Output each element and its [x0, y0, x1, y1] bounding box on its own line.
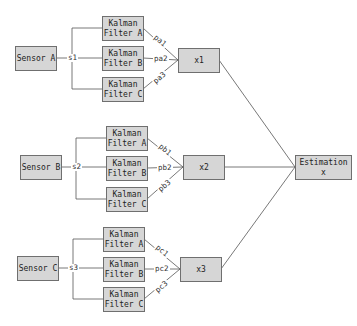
filter-line2: Filter B	[105, 270, 144, 280]
filter-line1: Kalman	[113, 190, 142, 200]
kalman-filter-a3: Kalman Filter C	[102, 77, 144, 102]
kalman-filter-c3: Kalman Filter C	[103, 287, 145, 312]
signal-s1-label: s1	[67, 54, 78, 62]
filter-line2: Filter C	[105, 300, 144, 310]
filter-line1: Kalman	[109, 19, 138, 29]
kalman-filter-c1: Kalman Filter A	[103, 227, 145, 252]
filter-line2: Filter C	[108, 200, 147, 210]
estimation-line1: Estimation	[299, 158, 347, 168]
signal-s3-label: s3	[68, 264, 79, 272]
kalman-filter-a1: Kalman Filter A	[102, 16, 144, 41]
filter-line1: Kalman	[110, 290, 139, 300]
kalman-filter-b2: Kalman Filter B	[106, 156, 148, 181]
fusion-node-label: x1	[194, 56, 204, 66]
fusion-node-x1: x1	[178, 48, 220, 73]
filter-line1: Kalman	[113, 129, 142, 139]
filter-line1: Kalman	[110, 260, 139, 270]
kalman-filter-c2: Kalman Filter B	[103, 257, 145, 282]
fusion-node-x3: x3	[180, 257, 222, 282]
filter-line1: Kalman	[109, 80, 138, 90]
weight-pb2-label: pb2	[157, 164, 173, 172]
signal-s2-label: s2	[71, 163, 82, 171]
sensor-b-label: Sensor B	[22, 163, 61, 173]
fusion-node-x2: x2	[183, 155, 225, 180]
filter-line2: Filter C	[104, 90, 143, 100]
sensor-b-box: Sensor B	[20, 155, 62, 180]
filter-line2: Filter A	[105, 240, 144, 250]
filter-line2: Filter B	[108, 169, 147, 179]
fusion-node-label: x2	[199, 163, 209, 173]
kalman-filter-b1: Kalman Filter A	[106, 126, 148, 151]
filter-line2: Filter B	[104, 59, 143, 69]
filter-line1: Kalman	[113, 159, 142, 169]
kalman-filter-a2: Kalman Filter B	[102, 46, 144, 71]
filter-line1: Kalman	[110, 230, 139, 240]
sensor-fusion-diagram: Sensor A Sensor B Sensor C s1 s2 s3 Kalm…	[0, 0, 357, 326]
weight-pa2-label: pa2	[153, 55, 169, 63]
sensor-c-box: Sensor C	[17, 256, 59, 281]
kalman-filter-b3: Kalman Filter C	[106, 187, 148, 212]
weight-pc2-label: pc2	[154, 265, 170, 273]
sensor-c-label: Sensor C	[19, 264, 58, 274]
filter-line2: Filter A	[108, 139, 147, 149]
sensor-a-box: Sensor A	[15, 46, 57, 71]
fusion-node-label: x3	[196, 265, 206, 275]
filter-line2: Filter A	[104, 29, 143, 39]
sensor-a-label: Sensor A	[17, 54, 56, 64]
estimation-output-box: Estimation x	[295, 155, 352, 180]
estimation-line2: x	[321, 168, 326, 178]
filter-line1: Kalman	[109, 49, 138, 59]
